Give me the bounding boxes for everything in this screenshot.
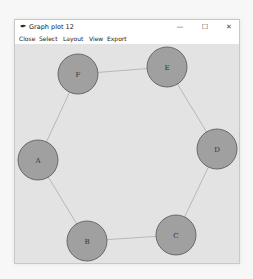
menu-close[interactable]: Close [19,34,35,44]
node-B[interactable]: B [67,221,107,261]
node-label: C [173,232,178,240]
menu-view[interactable]: View [89,34,103,44]
node-label: D [214,146,220,154]
node-A[interactable]: A [18,140,58,180]
node-label: A [34,157,41,165]
menu-bar: Close Select Layout View Export [15,34,239,44]
menu-select[interactable]: Select [39,34,58,44]
node-label: F [76,71,81,79]
feather-icon: ✒ [20,22,28,32]
graph-canvas[interactable]: ABCDEF [15,44,239,263]
node-D[interactable]: D [197,129,237,169]
close-window-button[interactable]: ✕ [219,21,239,33]
graph-svg[interactable]: ABCDEF [15,44,239,263]
maximize-button[interactable]: ☐ [195,21,215,33]
node-label: B [84,238,89,246]
title-bar[interactable]: ✒ Graph plot 12 — ☐ ✕ [15,20,239,34]
menu-export[interactable]: Export [107,34,127,44]
graph-plot-window: ✒ Graph plot 12 — ☐ ✕ Close Select Layou… [14,19,240,264]
node-E[interactable]: E [147,47,187,87]
menu-layout[interactable]: Layout [63,34,83,44]
window-title: Graph plot 12 [29,22,74,32]
node-F[interactable]: F [58,54,98,94]
node-label: E [164,64,169,72]
node-C[interactable]: C [156,215,196,255]
minimize-button[interactable]: — [170,21,190,33]
